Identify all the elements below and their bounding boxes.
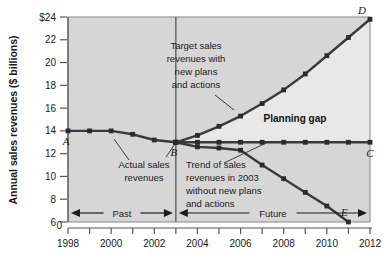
x-tick-label: 2008 <box>273 238 296 249</box>
y-tick-label: 16 <box>45 103 57 114</box>
annotation-target-line-4: and actions <box>172 79 221 90</box>
data-point-marker <box>109 128 114 133</box>
y-tick-label: 18 <box>45 80 57 91</box>
data-point-marker <box>260 101 265 106</box>
data-point-marker <box>368 17 373 22</box>
point-label-E: E <box>340 206 348 218</box>
point-label-B: B <box>170 146 177 158</box>
data-point-marker <box>217 124 222 129</box>
x-tick-label: 1998 <box>57 238 80 249</box>
data-point-marker <box>324 204 329 209</box>
data-point-marker <box>368 140 373 145</box>
data-point-marker <box>195 144 200 149</box>
annotation-actual-line-1: Actual sales <box>118 159 169 170</box>
annotation-target-line-1: Target sales <box>170 40 221 51</box>
data-point-marker <box>324 53 329 58</box>
x-tick-label: 2006 <box>229 238 252 249</box>
data-point-marker <box>238 148 243 153</box>
data-point-marker <box>346 35 351 40</box>
data-point-marker <box>260 163 265 168</box>
x-axis-ticks: 19982000200220042006200820102012 <box>57 228 382 249</box>
y-tick-label: 12 <box>45 148 57 159</box>
data-point-marker <box>324 140 329 145</box>
y-tick-label: 8 <box>50 194 56 205</box>
data-point-marker <box>281 87 286 92</box>
x-tick-label: 2002 <box>143 238 166 249</box>
point-label-A: A <box>62 135 70 147</box>
annotation-trend-line-4: and actions <box>186 198 235 209</box>
y-tick-label: 20 <box>45 57 57 68</box>
planning-gap-chart: 6810121416182022$24 0 199820002002200420… <box>0 0 387 266</box>
annotation-planning-gap: Planning gap <box>264 113 327 124</box>
annotation-target-line-3: new plans <box>175 66 218 77</box>
data-point-marker <box>238 114 243 119</box>
annotation-actual-line-2: revenues <box>124 172 163 183</box>
era-label-future: Future <box>259 208 286 219</box>
data-point-marker <box>217 146 222 151</box>
y-axis-zero-label: 0 <box>56 220 62 231</box>
x-tick-label: 2010 <box>316 238 339 249</box>
y-axis-title: Annual sales revenues ($ billions) <box>7 35 19 204</box>
era-label-past: Past <box>112 208 131 219</box>
data-point-marker <box>217 140 222 145</box>
data-point-marker <box>152 138 157 143</box>
y-tick-label: 10 <box>45 171 57 182</box>
annotation-trend-line-2: revenues in 2003 <box>186 172 259 183</box>
data-point-marker <box>346 220 351 225</box>
data-point-marker <box>66 128 71 133</box>
data-point-marker <box>346 140 351 145</box>
annotation-trend-line-3: without new plans <box>185 185 262 196</box>
x-tick-label: 2012 <box>359 238 382 249</box>
data-point-marker <box>281 176 286 181</box>
chart-page: 6810121416182022$24 0 199820002002200420… <box>0 0 387 266</box>
data-point-marker <box>130 132 135 137</box>
point-label-C: C <box>366 147 374 159</box>
annotation-trend-line-1: Trend of sales <box>186 159 246 170</box>
data-point-marker <box>87 128 92 133</box>
data-point-marker <box>303 190 308 195</box>
data-point-marker <box>303 140 308 145</box>
y-axis-ticks: 6810121416182022$24 <box>39 12 67 228</box>
data-point-marker <box>281 140 286 145</box>
x-tick-label: 2004 <box>186 238 209 249</box>
data-point-marker <box>195 140 200 145</box>
data-point-marker <box>303 72 308 77</box>
y-tick-label: 22 <box>45 34 57 45</box>
point-label-D: D <box>357 4 366 16</box>
y-tick-label: 14 <box>45 125 57 136</box>
y-tick-label: $24 <box>39 12 56 23</box>
data-point-marker <box>195 133 200 138</box>
data-point-marker <box>238 140 243 145</box>
x-tick-label: 2000 <box>100 238 123 249</box>
annotation-target-line-2: revenues with <box>167 53 226 64</box>
